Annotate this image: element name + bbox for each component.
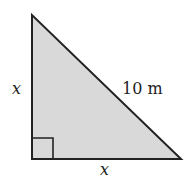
triangle-diagram: x 10 m x: [0, 0, 191, 177]
left-leg-label: x: [12, 79, 21, 98]
hypotenuse-label: 10 m: [122, 79, 163, 98]
bottom-leg-label: x: [100, 160, 109, 177]
